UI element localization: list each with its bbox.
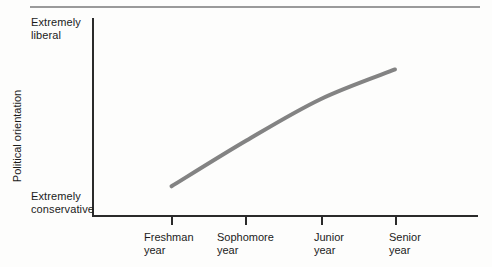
series-line-political-orientation xyxy=(172,69,396,186)
chart-plot-area xyxy=(0,0,492,267)
political-orientation-line-chart: Extremely liberal Extremely conservative… xyxy=(0,0,492,267)
